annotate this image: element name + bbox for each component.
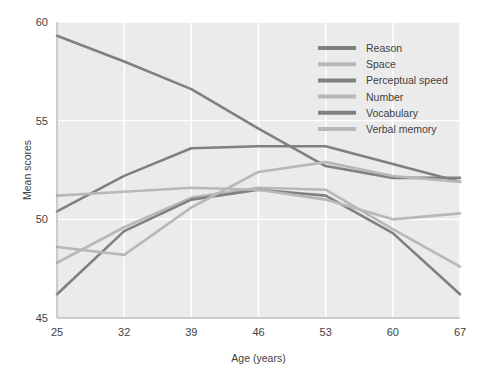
y-tick-label: 45 bbox=[36, 312, 48, 324]
x-tick-label: 39 bbox=[185, 326, 197, 338]
x-tick-label: 46 bbox=[252, 326, 264, 338]
legend-label: Vocabulary bbox=[366, 107, 419, 119]
x-tick-label: 53 bbox=[320, 326, 332, 338]
y-tick-label: 60 bbox=[36, 16, 48, 28]
x-tick-label: 60 bbox=[387, 326, 399, 338]
legend-label: Verbal memory bbox=[366, 123, 437, 135]
line-chart: 4550556025323946536067 Mean scoresAge (y… bbox=[0, 0, 493, 374]
x-tick-label: 67 bbox=[454, 326, 466, 338]
legend-label: Perceptual speed bbox=[366, 74, 448, 86]
y-tick-label: 50 bbox=[36, 213, 48, 225]
chart-canvas: 4550556025323946536067 Mean scoresAge (y… bbox=[0, 0, 493, 374]
y-tick-label: 55 bbox=[36, 115, 48, 127]
y-axis-title: Mean scores bbox=[21, 140, 33, 200]
x-axis-title: Age (years) bbox=[231, 352, 285, 364]
legend-label: Space bbox=[366, 58, 396, 70]
x-tick-label: 25 bbox=[51, 326, 63, 338]
legend-label: Number bbox=[366, 91, 404, 103]
legend-label: Reason bbox=[366, 42, 402, 54]
x-tick-label: 32 bbox=[118, 326, 130, 338]
